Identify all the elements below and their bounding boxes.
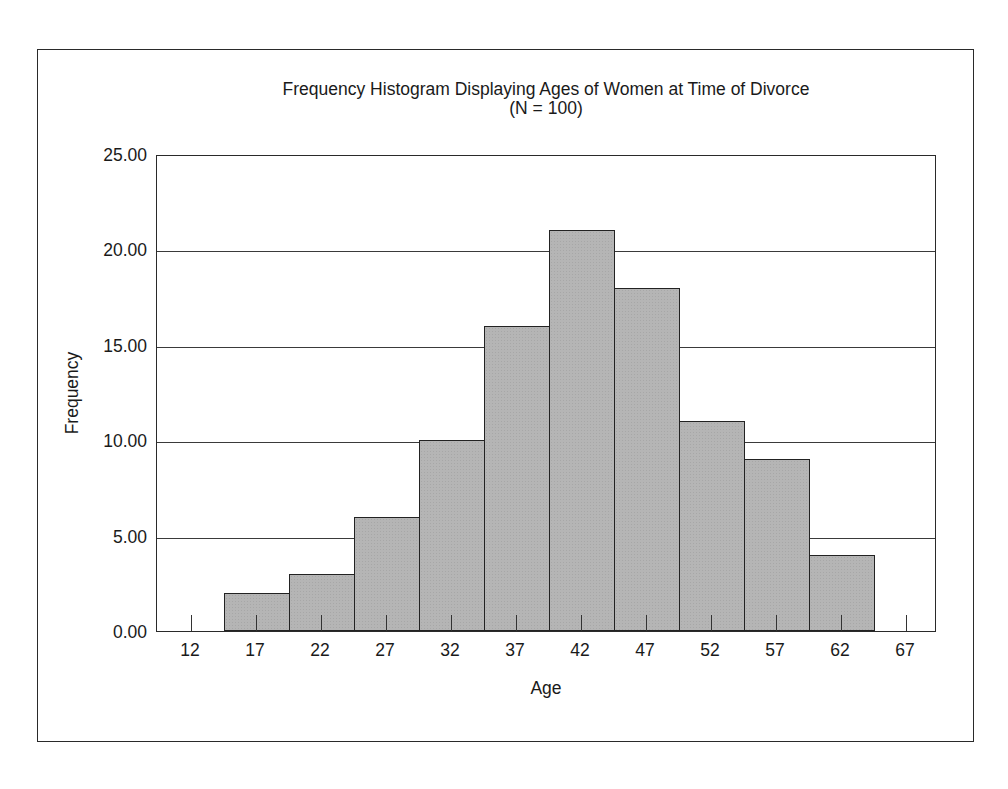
gridline — [157, 251, 935, 252]
plot-area — [156, 155, 936, 632]
x-tick-label: 32 — [430, 640, 470, 661]
x-axis-tick — [906, 615, 907, 631]
y-tick-label: 15.00 — [103, 335, 147, 356]
x-tick-label: 42 — [560, 640, 600, 661]
y-tick-label: 25.00 — [103, 145, 147, 166]
chart-title: Frequency Histogram Displaying Ages of W… — [156, 80, 936, 118]
y-axis-title: Frequency — [62, 352, 83, 435]
x-axis-tick — [256, 615, 257, 631]
x-axis-tick — [581, 615, 582, 631]
y-tick-label: 5.00 — [113, 526, 147, 547]
x-axis-tick — [516, 615, 517, 631]
x-tick-label: 52 — [690, 640, 730, 661]
x-axis-tick — [451, 615, 452, 631]
histogram-bar — [679, 421, 745, 631]
x-tick-label: 17 — [235, 640, 275, 661]
histogram-bar — [354, 517, 420, 631]
histogram-bar — [419, 440, 485, 631]
histogram-bar — [744, 459, 810, 631]
y-tick-label: 10.00 — [103, 431, 147, 452]
chart-subtitle: (N = 100) — [156, 99, 936, 118]
x-axis-title: Age — [156, 678, 936, 699]
chart-title-text: Frequency Histogram Displaying Ages of W… — [283, 79, 810, 99]
x-tick-label: 67 — [885, 640, 925, 661]
x-tick-label: 37 — [495, 640, 535, 661]
x-tick-label: 27 — [365, 640, 405, 661]
histogram-bar — [484, 326, 550, 631]
x-tick-label: 12 — [170, 640, 210, 661]
x-axis-tick — [776, 615, 777, 631]
y-tick-label: 20.00 — [103, 240, 147, 261]
x-tick-label: 57 — [755, 640, 795, 661]
x-tick-label: 62 — [820, 640, 860, 661]
x-axis-tick — [321, 615, 322, 631]
x-tick-label: 22 — [300, 640, 340, 661]
x-axis-tick — [191, 615, 192, 631]
x-tick-label: 47 — [625, 640, 665, 661]
x-axis-tick — [711, 615, 712, 631]
x-axis-tick — [841, 615, 842, 631]
histogram-bar — [549, 230, 615, 631]
y-tick-label: 0.00 — [113, 622, 147, 643]
x-axis-tick — [386, 615, 387, 631]
x-axis-tick — [646, 615, 647, 631]
histogram-bar — [614, 288, 680, 631]
